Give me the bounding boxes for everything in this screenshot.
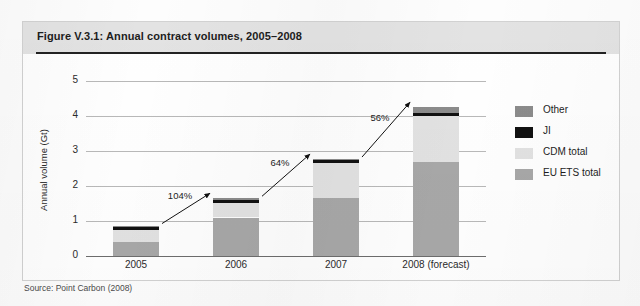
x-tick-label-3: 2008 (forecast) [402, 259, 469, 270]
y-tick-label-2: 2 [72, 179, 78, 190]
y-tick-label-1: 1 [72, 214, 78, 225]
growth-arrow-64% [262, 154, 310, 196]
y-tick-label-5: 5 [72, 74, 78, 85]
y-tick-label-0: 0 [72, 249, 78, 260]
plot-area: 012345 Annual volume (Gt) 20052006200720… [23, 55, 619, 280]
y-axis-label: Annual volume (Gt) [38, 129, 49, 211]
legend-label: CDM total [543, 146, 587, 157]
growth-arrow-56% [362, 102, 410, 157]
gridline-0 [86, 256, 486, 257]
x-tick-label-1: 2006 [225, 259, 247, 270]
legend-item-cdm-total[interactable]: CDM total [515, 145, 615, 162]
growth-arrow-104% [162, 193, 210, 223]
legend-label: EU ETS total [543, 167, 601, 178]
legend-swatch-icon [515, 127, 533, 138]
figure-source: Source: Point Carbon (2008) [24, 283, 132, 293]
legend-swatch-icon [515, 106, 533, 117]
legend-item-eu-ets-total[interactable]: EU ETS total [515, 166, 615, 183]
y-tick-label-4: 4 [72, 109, 78, 120]
title-rule [36, 52, 606, 54]
y-axis-ticks: 012345 [23, 81, 86, 256]
legend-swatch-icon [515, 148, 533, 159]
x-tick-label-2: 2007 [325, 259, 347, 270]
figure-frame: Figure V.3.1: Annual contract volumes, 2… [22, 21, 620, 281]
legend-swatch-icon [515, 169, 533, 180]
legend-item-ji[interactable]: JI [515, 124, 615, 141]
growth-arrows [86, 81, 486, 256]
legend-item-other[interactable]: Other [515, 103, 615, 120]
figure-title: Figure V.3.1: Annual contract volumes, 2… [37, 30, 302, 42]
figure-page: Figure V.3.1: Annual contract volumes, 2… [0, 0, 640, 306]
x-tick-label-0: 2005 [125, 259, 147, 270]
chart-legend: OtherJICDM totalEU ETS total [515, 103, 615, 187]
legend-label: JI [543, 125, 551, 136]
legend-label: Other [543, 104, 568, 115]
y-tick-label-3: 3 [72, 144, 78, 155]
